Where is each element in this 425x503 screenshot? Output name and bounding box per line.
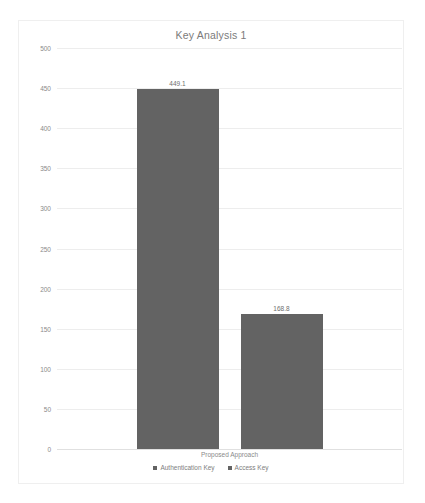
y-tick-label: 450 xyxy=(40,85,51,92)
legend-swatch-icon xyxy=(228,466,232,470)
y-tick-label: 300 xyxy=(40,205,51,212)
y-tick-label: 100 xyxy=(40,365,51,372)
y-tick-label: 250 xyxy=(40,245,51,252)
bar-value-label: 449.1 xyxy=(169,80,185,87)
plot-area: 500 450 400 350 300 250 200 150 100 50 0 xyxy=(57,48,402,449)
y-tick-label: 350 xyxy=(40,165,51,172)
legend-label: Authentication Key xyxy=(160,464,214,471)
y-tick-label: 150 xyxy=(40,325,51,332)
chart-legend: Authentication Key Access Key xyxy=(19,464,403,471)
gridline-100: 100 xyxy=(57,369,402,370)
legend-item-authentication-key[interactable]: Authentication Key xyxy=(153,464,214,471)
gridline-500: 500 xyxy=(57,48,402,49)
gridline-300: 300 xyxy=(57,208,402,209)
y-tick-label: 50 xyxy=(44,405,51,412)
y-tick-label: 400 xyxy=(40,125,51,132)
gridline-250: 250 xyxy=(57,249,402,250)
legend-item-access-key[interactable]: Access Key xyxy=(228,464,269,471)
gridline-350: 350 xyxy=(57,168,402,169)
legend-swatch-icon xyxy=(153,466,157,470)
gridline-0: 0 xyxy=(57,449,402,450)
bar-value-label: 168.8 xyxy=(273,305,289,312)
x-axis-category-label: Proposed Approach xyxy=(57,451,402,458)
bar-authentication-key[interactable] xyxy=(137,89,219,449)
legend-label: Access Key xyxy=(235,464,269,471)
gridline-450: 450 xyxy=(57,88,402,89)
bar-access-key[interactable] xyxy=(241,314,323,449)
chart-container: Key Analysis 1 500 450 400 350 300 250 2… xyxy=(18,20,404,484)
gridline-400: 400 xyxy=(57,128,402,129)
gridline-150: 150 xyxy=(57,329,402,330)
gridline-50: 50 xyxy=(57,409,402,410)
y-tick-label: 0 xyxy=(47,446,51,453)
y-tick-label: 500 xyxy=(40,45,51,52)
gridline-200: 200 xyxy=(57,289,402,290)
y-tick-label: 200 xyxy=(40,285,51,292)
chart-title: Key Analysis 1 xyxy=(19,29,403,41)
